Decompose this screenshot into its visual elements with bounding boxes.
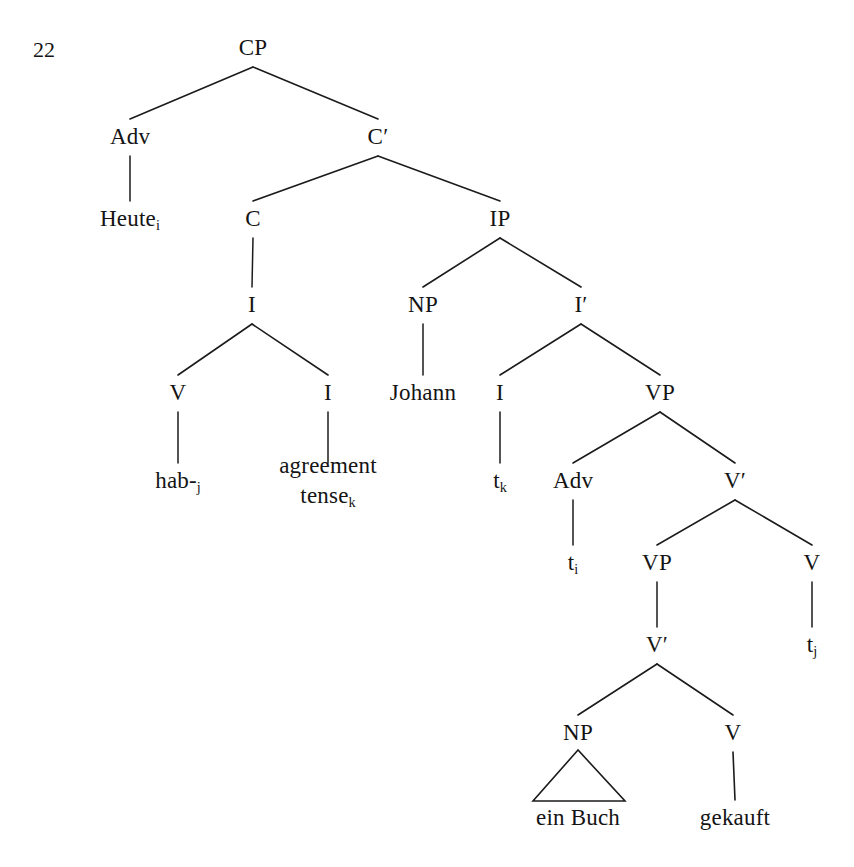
tree-node-v3: V (725, 720, 742, 746)
triangles-group (533, 750, 625, 801)
tree-branch-v3-to-gekauft (733, 752, 735, 800)
tree-branch-vbar2-to-v3 (657, 664, 733, 715)
node-label-text: t (807, 632, 814, 657)
node-label-text: V (804, 550, 821, 575)
tree-node-cbar: C′ (368, 124, 389, 150)
tree-node-np2: NP (563, 720, 593, 746)
node-label-text: Adv (553, 468, 593, 493)
tree-branch-vp1-to-vbar1 (660, 412, 735, 463)
node-label-text: C′ (368, 124, 389, 149)
tree-branch-ibar-to-i_infl (500, 324, 581, 375)
tree-node-vp2: VP (642, 550, 672, 576)
syntax-tree-figure: 22 CPAdvC′HeuteiCIPINPI′VIJohannIVPhab-j… (0, 0, 854, 867)
tree-node-ti: ti (568, 550, 579, 576)
tree-node-i_under_c: I (248, 292, 256, 318)
node-label-text: Johann (390, 380, 456, 405)
tree-node-v2: V (804, 550, 821, 576)
node-label-text: I (496, 380, 504, 405)
tree-branch-vbar1-to-vp2 (657, 500, 735, 545)
tree-node-johann: Johann (390, 380, 456, 406)
tree-node-i_infl: I (496, 380, 504, 406)
tree-node-v1: V (170, 380, 187, 406)
tree-branch-ibar-to-vp1 (581, 324, 660, 375)
tree-node-ip: IP (490, 206, 511, 232)
node-label-text: I (324, 380, 332, 405)
tree-node-cp: CP (239, 35, 268, 61)
node-label-text: agreement (279, 453, 377, 478)
tree-branch-vp1-to-adv2 (573, 412, 660, 463)
node-label-text: NP (563, 720, 593, 745)
node-subscript: i (574, 561, 578, 577)
tree-node-einbuch: ein Buch (536, 805, 620, 831)
node-label-text: V′ (724, 468, 746, 493)
tree-node-vp1: VP (645, 380, 675, 406)
node-label-text: hab- (155, 468, 197, 493)
tree-node-c: C (245, 206, 261, 232)
node-label-text: V (725, 720, 742, 745)
node-subscript: j (197, 479, 201, 495)
tree-branch-i_under_c-to-i_right (252, 324, 328, 375)
tree-node-tk: tk (493, 468, 507, 494)
tree-node-adv1: Adv (110, 124, 150, 150)
tree-node-vbar2: V′ (646, 632, 668, 658)
node-label-text: t (493, 468, 500, 493)
tree-node-heute: Heutei (100, 206, 160, 232)
tree-branch-vbar2-to-np2 (578, 664, 657, 715)
tree-branch-cbar-to-c (253, 156, 378, 201)
tree-branch-c-to-i_under_c (252, 238, 253, 287)
node-label-text: V′ (646, 632, 668, 657)
tree-branch-vbar1-to-v2 (735, 500, 812, 545)
tree-branch-cp-to-cbar (253, 67, 378, 119)
node-label-text: I′ (574, 292, 587, 317)
node-label-text: VP (645, 380, 675, 405)
tree-node-adv2: Adv (553, 468, 593, 494)
tree-node-ibar: I′ (574, 292, 587, 318)
node-label-text-second: tense (300, 483, 348, 508)
tree-node-tj: tj (807, 632, 818, 658)
node-subscript: i (156, 217, 160, 233)
tree-node-hab: hab-j (155, 468, 201, 494)
node-subscript: k (500, 479, 507, 495)
node-label-text: ein Buch (536, 805, 620, 830)
tree-branch-i_under_c-to-v1 (178, 324, 252, 375)
node-label-text: Adv (110, 124, 150, 149)
node-label-text: Heute (100, 206, 156, 231)
edges-group (130, 67, 812, 800)
node-label-text: CP (239, 35, 268, 60)
node-label-text: NP (408, 292, 438, 317)
node-label-text: gekauft (700, 805, 770, 830)
node-subscript-second: k (349, 494, 356, 510)
node-label-text: C (245, 206, 261, 231)
node-label-text: VP (642, 550, 672, 575)
tree-branch-cbar-to-ip (378, 156, 500, 201)
node-subscript: j (813, 643, 817, 659)
tree-node-agrtense: agreementtensek (279, 451, 377, 511)
node-label-text: t (568, 550, 575, 575)
node-label-text: V (170, 380, 187, 405)
tree-node-np1: NP (408, 292, 438, 318)
tree-branch-cp-to-adv1 (130, 67, 253, 119)
np-triangle (533, 750, 625, 801)
node-label-text: IP (490, 206, 511, 231)
node-label-text: I (248, 292, 256, 317)
tree-branch-ip-to-ibar (500, 238, 581, 287)
tree-node-gekauft: gekauft (700, 805, 770, 831)
tree-branch-ip-to-np1 (423, 238, 500, 287)
tree-node-vbar1: V′ (724, 468, 746, 494)
tree-node-i_right: I (324, 380, 332, 406)
